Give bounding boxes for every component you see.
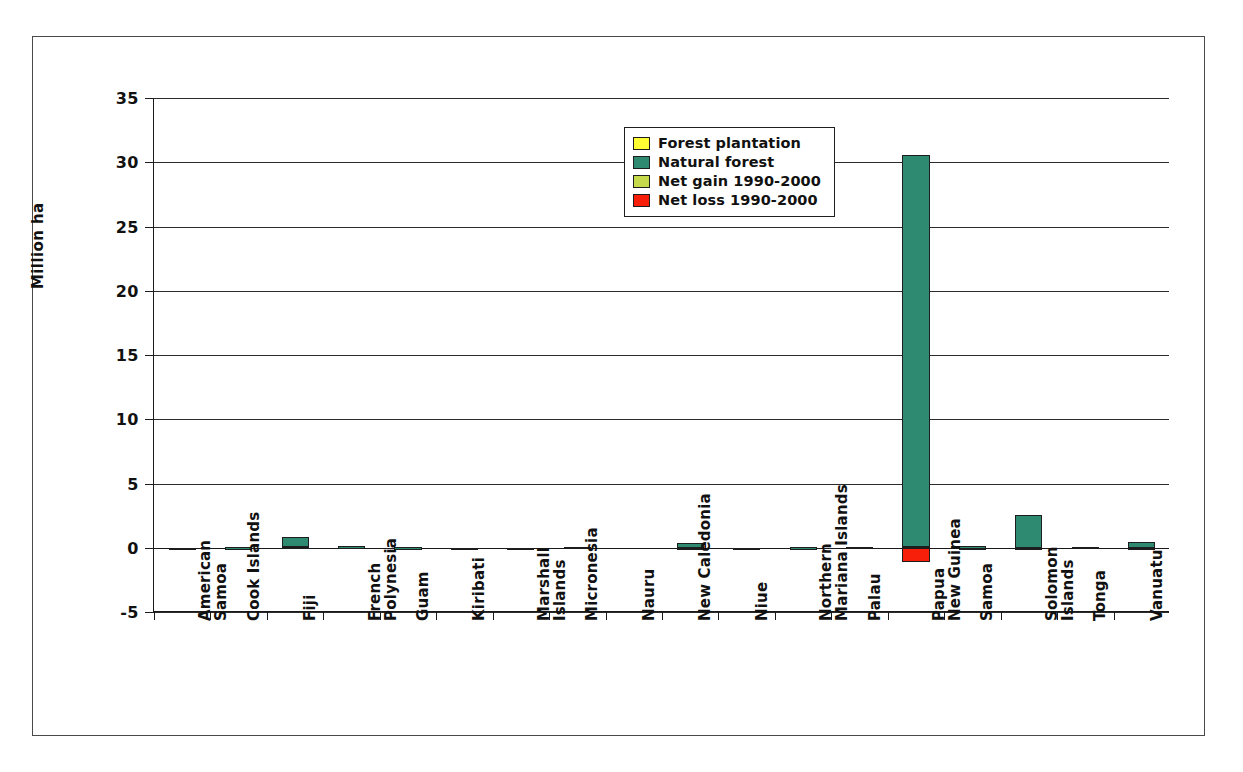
y-tick-25 bbox=[145, 227, 154, 228]
legend-label: Natural forest bbox=[658, 154, 774, 170]
x-axis-label: Kiribati bbox=[471, 481, 487, 621]
x-axis-label: Niue bbox=[754, 481, 770, 621]
y-tick-10 bbox=[145, 419, 154, 420]
x-axis-label: Vanuatu bbox=[1149, 481, 1165, 621]
x-tick bbox=[1114, 611, 1115, 620]
x-axis-label: Tonga bbox=[1092, 481, 1108, 621]
x-axis-label: Marshall Islands bbox=[536, 481, 568, 621]
y-tick-20 bbox=[145, 291, 154, 292]
y-axis-label: 20 bbox=[79, 281, 139, 300]
legend-label: Net loss 1990-2000 bbox=[658, 192, 818, 208]
x-tick bbox=[888, 611, 889, 620]
x-axis-label: Papua New Guinea bbox=[931, 481, 963, 621]
legend-swatch-icon bbox=[633, 156, 650, 169]
x-axis-label: Samoa bbox=[979, 481, 995, 621]
x-axis-label: Cook Islands bbox=[246, 481, 262, 621]
y-axis-label: 15 bbox=[79, 346, 139, 365]
x-axis-label: American Samoa bbox=[197, 481, 229, 621]
bar-segment bbox=[790, 547, 817, 549]
legend-item: Net loss 1990-2000 bbox=[633, 191, 826, 209]
y-tick-15 bbox=[145, 355, 154, 356]
x-tick bbox=[1001, 611, 1002, 620]
bar-segment bbox=[507, 548, 534, 550]
y-tick-35 bbox=[145, 98, 154, 99]
x-axis-label: Nauru bbox=[641, 481, 657, 621]
bar-segment bbox=[169, 548, 196, 550]
x-axis-label: Northern Mariana Islands bbox=[818, 481, 850, 621]
x-axis-label: Micronesia bbox=[584, 481, 600, 621]
x-tick bbox=[436, 611, 437, 620]
bar-segment bbox=[1015, 548, 1042, 550]
x-tick bbox=[718, 611, 719, 620]
y-axis-label: 0 bbox=[79, 538, 139, 557]
legend-swatch-icon bbox=[633, 175, 650, 188]
bar-segment bbox=[902, 155, 929, 547]
x-axis-label: Guam bbox=[415, 481, 431, 621]
bar-segment bbox=[338, 546, 365, 548]
x-tick bbox=[493, 611, 494, 620]
x-tick bbox=[606, 611, 607, 620]
x-axis-label: Solomon Islands bbox=[1044, 481, 1076, 621]
y-axis-label: 35 bbox=[79, 89, 139, 108]
legend-item: Natural forest bbox=[633, 153, 826, 171]
chart-legend: Forest plantationNatural forestNet gain … bbox=[624, 127, 835, 217]
y-axis-title: Million ha bbox=[29, 203, 47, 290]
y-tick-5 bbox=[145, 484, 154, 485]
y-axis-label: 30 bbox=[79, 153, 139, 172]
y-axis-label: -5 bbox=[79, 603, 139, 622]
x-tick bbox=[775, 611, 776, 620]
y-tick-30 bbox=[145, 162, 154, 163]
bar-segment bbox=[902, 548, 929, 562]
figure-frame: -505101520253035 American SamoaCook Isla… bbox=[32, 36, 1205, 736]
x-tick bbox=[267, 611, 268, 620]
legend-label: Forest plantation bbox=[658, 135, 801, 151]
y-axis-label: 5 bbox=[79, 474, 139, 493]
legend-item: Net gain 1990-2000 bbox=[633, 172, 826, 190]
x-axis-label: New Caledonia bbox=[697, 481, 713, 621]
y-tick-0 bbox=[145, 548, 154, 549]
x-axis-label: Fiji bbox=[302, 481, 318, 621]
y-tick--5 bbox=[145, 612, 154, 613]
x-tick bbox=[154, 611, 155, 620]
legend-item: Forest plantation bbox=[633, 134, 826, 152]
y-axis-label: 25 bbox=[79, 217, 139, 236]
x-axis-label: French Polynesia bbox=[367, 481, 399, 621]
bar-segment bbox=[1015, 515, 1042, 548]
legend-swatch-icon bbox=[633, 194, 650, 207]
legend-label: Net gain 1990-2000 bbox=[658, 173, 821, 189]
x-tick bbox=[323, 611, 324, 620]
x-tick bbox=[662, 611, 663, 620]
x-axis-label: Palau bbox=[867, 481, 883, 621]
y-axis-label: 10 bbox=[79, 410, 139, 429]
legend-swatch-icon bbox=[633, 137, 650, 150]
